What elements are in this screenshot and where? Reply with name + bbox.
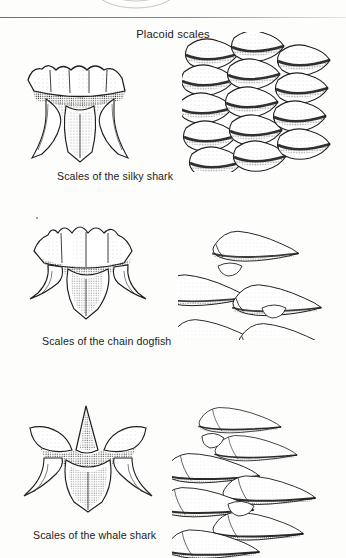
silky-shark-single-scale-illustration <box>22 58 140 166</box>
horizontal-rule <box>0 17 346 18</box>
chain-dogfish-single-scale-illustration <box>28 213 148 323</box>
whale-shark-single-scale-illustration <box>22 398 154 518</box>
caption-silky-shark: Scales of the silky shark <box>57 170 173 182</box>
caption-whale-shark: Scales of the whale shark <box>33 529 156 541</box>
figure-page: Placoid scales <box>0 0 346 558</box>
top-cutoff-illustration <box>88 0 184 12</box>
chain-dogfish-scale-cluster-illustration <box>178 208 346 340</box>
whale-shark-scale-cluster-illustration <box>172 392 346 558</box>
caption-chain-dogfish: Scales of the chain dogfish <box>42 335 171 347</box>
silky-shark-scale-cluster-illustration <box>182 32 340 172</box>
